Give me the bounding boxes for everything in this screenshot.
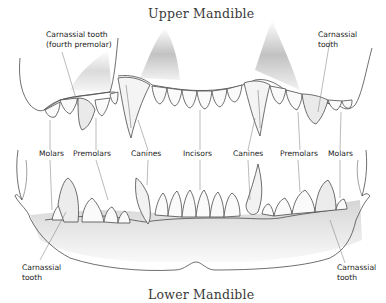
upper-mandible-title: Upper Mandible xyxy=(148,6,254,21)
label-premolars-right: Premolars xyxy=(280,149,318,159)
label-molars-right: Molars xyxy=(328,149,353,159)
label-upper-left-carnassial: Carnassial tooth (fourth premolar) xyxy=(46,30,112,49)
label-line: (fourth premolar) xyxy=(46,40,112,50)
label-premolars-left: Premolars xyxy=(73,149,111,159)
dental-anatomy-diagram: Upper Mandible Lower Mandible Carnassial… xyxy=(0,0,386,303)
label-upper-right-carnassial: Carnassial tooth xyxy=(318,30,357,49)
label-molars-left: Molars xyxy=(39,149,64,159)
label-line: tooth xyxy=(337,273,376,283)
label-line: tooth xyxy=(318,40,357,50)
label-lower-right-carnassial: Carnassial tooth xyxy=(337,263,376,282)
lower-mandible-title: Lower Mandible xyxy=(148,287,254,302)
lower-jaw xyxy=(15,150,370,271)
label-canines-left: Canines xyxy=(131,149,161,159)
label-lower-left-carnassial: Carnassial tooth xyxy=(22,263,61,282)
label-incisors: Incisors xyxy=(183,149,212,159)
label-line: tooth xyxy=(22,273,61,283)
label-line: Carnassial xyxy=(337,263,376,273)
label-line: Carnassial tooth xyxy=(46,30,112,40)
label-line: Carnassial xyxy=(22,263,61,273)
label-canines-right: Canines xyxy=(233,149,263,159)
label-line: Carnassial xyxy=(318,30,357,40)
